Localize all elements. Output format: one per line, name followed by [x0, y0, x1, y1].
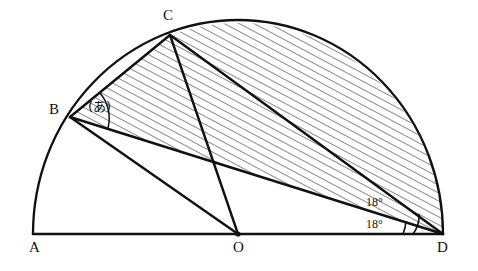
- vertex-label-O: O: [233, 240, 244, 255]
- geometry-canvas: [0, 0, 478, 271]
- vertex-label-C: C: [163, 8, 173, 23]
- angle-label-at-B: (あ): [88, 100, 111, 113]
- vertex-label-B: B: [49, 102, 59, 117]
- angle-label-bdo: 18°: [366, 218, 383, 230]
- vertex-dot-O: [235, 231, 240, 236]
- angle-label-bdc: 18°: [366, 196, 383, 208]
- vertex-label-D: D: [437, 240, 448, 255]
- hatched-region-BCD: [0, 0, 478, 271]
- vertex-label-A: A: [29, 240, 40, 255]
- geometry-figure: A O D B C (あ) 18° 18°: [0, 0, 478, 271]
